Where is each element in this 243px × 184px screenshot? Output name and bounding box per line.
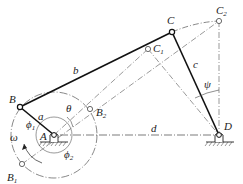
label-phi2: ϕ2 [64,148,74,162]
label-omega: ω [10,131,18,143]
label-a: A [39,130,47,142]
label-link-b: b [73,64,79,76]
joint-c2 [216,18,221,23]
joint-c1 [145,46,150,51]
line-c1-d [148,49,219,135]
label-phi1: ϕ1 [26,118,35,132]
link-b [20,32,172,107]
label-theta: θ [66,102,72,114]
joint-d [217,133,222,138]
link-c [172,32,219,135]
omega-arrow [24,144,42,163]
label-c: C [167,14,175,26]
four-bar-linkage-diagram: B B1 B2 C C1 C2 D A a b c d θ ψ ω ϕ1 ϕ2 [0,0,243,184]
joint-a [52,133,57,138]
joint-b [17,104,22,109]
joint-b1 [19,161,24,166]
line-a-c1 [54,49,148,135]
joint-b2 [87,106,92,111]
label-link-d: d [151,122,157,134]
label-d: D [223,120,232,132]
label-b: B [9,93,16,105]
label-link-c: c [193,58,198,70]
label-b1: B1 [7,171,17,184]
label-b2: B2 [96,106,107,120]
label-link-a: a [38,110,44,122]
joint-c [169,29,174,34]
label-psi: ψ [204,78,211,90]
line-b1-c2 [22,21,219,164]
label-c2: C2 [216,4,227,18]
rocker-arc [172,21,219,32]
label-c1: C1 [153,42,164,56]
